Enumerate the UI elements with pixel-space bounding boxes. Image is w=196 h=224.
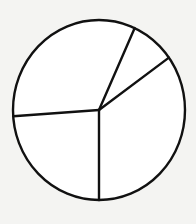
pie-chart <box>0 0 196 224</box>
pie-chart-svg <box>0 0 196 224</box>
